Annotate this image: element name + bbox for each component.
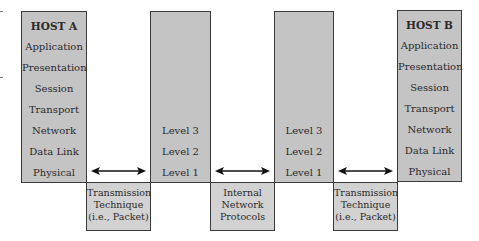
node-1-level-3: Level 3 [151,125,210,136]
network-node-2-stack: Level 3 Level 2 Level 1 [274,11,334,183]
node-2-level-2: Level 2 [275,146,333,157]
link-3-line-1: Transmission [334,187,397,199]
link-2-line-1: Internal [211,187,274,199]
link-2-line-2: Network [211,199,274,211]
host-a-layer-physical: Physical [22,167,86,178]
host-a-layer-session: Session [22,83,86,94]
host-b-layer-data-link: Data Link [398,145,461,156]
host-a-layer-presentation: Presentation [22,62,86,73]
internal-network-protocols-box: Internal Network Protocols [210,182,275,231]
link-3-line-3: (i.e., Packet) [334,211,397,223]
node-2-level-1: Level 1 [275,167,333,178]
link-1-line-1: Transmission [87,187,150,199]
double-arrow-icon [91,166,146,176]
network-node-1-stack: Level 3 Level 2 Level 1 [150,11,211,183]
host-b-layer-presentation: Presentation [398,61,461,72]
host-a-layer-network: Network [22,125,86,136]
link-2-line-3: Protocols [211,211,274,223]
host-a-title: HOST A [22,20,86,32]
host-a-stack: HOST A Application Presentation Session … [21,11,87,183]
host-a-layer-transport: Transport [22,104,86,115]
link-3-line-2: Technique [334,199,397,211]
host-b-title: HOST B [398,19,461,31]
host-b-layer-session: Session [398,82,461,93]
double-arrow-icon [215,166,270,176]
host-b-stack: HOST B Application Presentation Session … [397,10,462,182]
host-b-layer-physical: Physical [398,166,461,177]
host-a-layer-application: Application [22,41,86,52]
transmission-technique-box-2: Transmission Technique (i.e., Packet) [333,182,398,231]
host-b-layer-transport: Transport [398,103,461,114]
node-1-level-2: Level 2 [151,146,210,157]
host-b-layer-application: Application [398,40,461,51]
node-2-level-3: Level 3 [275,125,333,136]
link-1-line-3: (i.e., Packet) [87,211,150,223]
link-1-line-2: Technique [87,199,150,211]
margin-tick-mark [0,77,3,78]
transmission-technique-box-1: Transmission Technique (i.e., Packet) [86,182,151,231]
host-b-layer-network: Network [398,124,461,135]
node-1-level-1: Level 1 [151,167,210,178]
margin-tick-mark [0,11,3,12]
double-arrow-icon [338,166,393,176]
host-a-layer-data-link: Data Link [22,146,86,157]
